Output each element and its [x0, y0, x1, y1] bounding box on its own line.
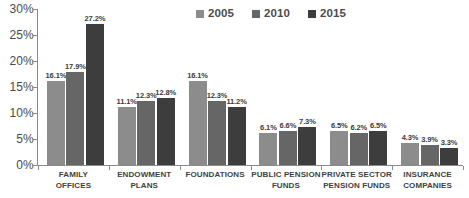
bar-value-label: 6.5%	[370, 121, 387, 130]
bar-value-label: 6.2%	[350, 123, 367, 132]
x-tick-mark	[251, 166, 252, 170]
bar-value-label: 16.1%	[46, 71, 67, 80]
bar[interactable]: 12.3%	[208, 101, 226, 165]
x-category-label-line: PUBLIC PENSION	[251, 170, 322, 181]
x-tick-mark	[392, 166, 393, 170]
bar-value-label: 12.3%	[207, 91, 228, 100]
bar[interactable]: 16.1%	[189, 81, 207, 165]
bar[interactable]: 7.3%	[298, 127, 316, 165]
bar-value-label: 16.1%	[187, 71, 208, 80]
y-tick-mark	[33, 87, 38, 88]
y-tick-mark	[33, 35, 38, 36]
bar-value-label: 3.9%	[421, 135, 438, 144]
bar-group: 16.1%12.3%11.2%	[180, 9, 251, 165]
bar[interactable]: 6.5%	[330, 131, 348, 165]
bar[interactable]: 6.5%	[369, 131, 387, 165]
x-category-label: FOUNDATIONS	[180, 170, 251, 181]
x-category-label-line: PLANS	[109, 181, 180, 192]
bar-value-label: 12.3%	[136, 91, 157, 100]
x-category-label-line: PENSION FUNDS	[321, 181, 392, 192]
y-tick-mark	[33, 9, 38, 10]
bar[interactable]: 4.3%	[401, 143, 419, 165]
bar[interactable]: 3.9%	[421, 145, 439, 165]
x-category-label: FAMILYOFFICES	[38, 170, 109, 191]
bar-chart: 200520102015 30%25%20%15%10%5%0% 16.1%17…	[0, 0, 469, 198]
x-tick-mark	[463, 166, 464, 170]
y-tick-label: 20%	[9, 54, 34, 68]
x-category-label-line: INSURANCE	[392, 170, 463, 181]
x-tick-mark	[180, 166, 181, 170]
bar[interactable]: 6.2%	[350, 133, 368, 165]
bar-value-label: 3.3%	[441, 138, 458, 147]
bar-value-label: 6.1%	[260, 123, 277, 132]
y-tick-label: 15%	[9, 80, 34, 94]
x-category-label-line: FUNDS	[251, 181, 322, 192]
y-tick-mark	[33, 139, 38, 140]
bar-group: 6.1%6.6%7.3%	[251, 9, 322, 165]
bar-value-label: 7.3%	[299, 117, 316, 126]
x-tick-mark	[38, 166, 39, 170]
y-tick-mark	[33, 61, 38, 62]
x-category-label: PUBLIC PENSIONFUNDS	[251, 170, 322, 191]
bar-value-label: 17.9%	[65, 62, 86, 71]
x-tick-mark	[321, 166, 322, 170]
y-tick-label: 30%	[9, 2, 34, 16]
y-tick-label: 5%	[16, 132, 34, 146]
bar[interactable]: 12.8%	[157, 98, 175, 165]
bar[interactable]: 6.1%	[259, 133, 277, 165]
bar-value-label: 11.2%	[226, 97, 246, 106]
bar-value-label: 27.2%	[85, 14, 106, 23]
x-category-label-line: COMPANIES	[392, 181, 463, 192]
bar[interactable]: 27.2%	[86, 24, 104, 165]
y-tick-label: 0%	[16, 158, 34, 172]
bar[interactable]: 11.1%	[118, 107, 136, 165]
bar-value-label: 4.3%	[402, 133, 419, 142]
y-tick-mark	[33, 113, 38, 114]
x-category-label-line: PRIVATE SECTOR	[321, 170, 392, 181]
x-category-label-line: FOUNDATIONS	[180, 170, 251, 181]
x-category-label-line: OFFICES	[38, 181, 109, 192]
bar[interactable]: 17.9%	[66, 72, 84, 165]
bar-value-label: 6.5%	[331, 121, 348, 130]
x-tick-mark	[109, 166, 110, 170]
x-category-label: ENDOWMENTPLANS	[109, 170, 180, 191]
bar[interactable]: 11.2%	[228, 107, 246, 165]
bar[interactable]: 6.6%	[279, 131, 297, 165]
bar-value-label: 6.6%	[280, 121, 297, 130]
bar-group: 11.1%12.3%12.8%	[109, 9, 180, 165]
bar[interactable]: 3.3%	[440, 148, 458, 165]
y-tick-label: 25%	[9, 28, 34, 42]
y-axis: 30%25%20%15%10%5%0%	[0, 0, 34, 166]
bar-group: 6.5%6.2%6.5%	[321, 9, 392, 165]
x-category-label-line: FAMILY	[38, 170, 109, 181]
bar[interactable]: 12.3%	[137, 101, 155, 165]
x-category-label: INSURANCECOMPANIES	[392, 170, 463, 191]
x-category-label: PRIVATE SECTORPENSION FUNDS	[321, 170, 392, 191]
x-axis-category-labels: FAMILYOFFICESENDOWMENTPLANSFOUNDATIONSPU…	[38, 170, 463, 198]
bar-group: 4.3%3.9%3.3%	[392, 9, 463, 165]
bar-value-label: 12.8%	[155, 88, 176, 97]
y-tick-label: 10%	[9, 106, 34, 120]
bar[interactable]: 16.1%	[47, 81, 65, 165]
bar-group: 16.1%17.9%27.2%	[38, 9, 109, 165]
x-category-label-line: ENDOWMENT	[109, 170, 180, 181]
plot-area: 16.1%17.9%27.2%11.1%12.3%12.8%16.1%12.3%…	[38, 9, 463, 165]
bar-value-label: 11.1%	[117, 97, 137, 106]
